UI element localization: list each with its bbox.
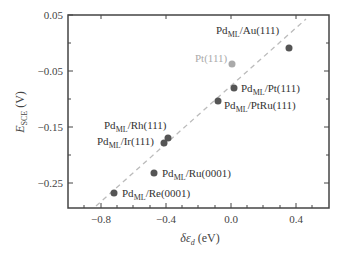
label-pd-rh: PdML/Rh(111) [104,119,167,134]
point-pt111 [229,61,236,68]
y-tick-label: −0.25 [38,177,64,189]
label-pd-ir: PdML/Ir(111) [97,135,154,150]
x-tick-label: −0.4 [156,213,176,225]
point-pd-ru [151,170,158,177]
y-tick-label: 0.05 [44,9,64,21]
label-pd-ptru: PdML/PtRu(111) [224,99,296,114]
x-tick-label: −0.8 [91,213,111,225]
y-tick-label: −0.05 [38,65,64,77]
x-tick-label: 0.4 [289,213,303,225]
label-pd-ru: PdML/Ru(0001) [162,167,231,182]
point-pd-ir [161,140,168,147]
scatter-chart: 0.05 −0.05 −0.15 −0.25 −0.8 −0.4 0.0 0.4… [0,0,345,255]
x-axis-title: δεd (eV) [180,231,219,247]
y-tick-label: −0.15 [38,121,64,133]
label-pd-pt: PdML/Pt(111) [241,82,300,97]
point-pd-ptru [215,98,222,105]
label-au: PdML/Au(111) [216,24,279,39]
x-tick-label: 0.0 [224,213,238,225]
label-pt111: Pt(111) [195,52,228,65]
label-pd-re: PdML/Re(0001) [122,187,191,202]
point-au [286,45,293,52]
point-pd-pt [231,85,238,92]
y-axis-title: ESCE (V) [13,91,29,134]
plot-frame [68,15,329,208]
point-pd-re [111,190,118,197]
